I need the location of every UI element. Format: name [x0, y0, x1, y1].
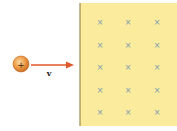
velocity-arrow: v: [31, 62, 74, 79]
velocity-label: v: [46, 68, 52, 78]
field-x-mark: ×: [97, 18, 104, 27]
diagram-canvas: ××××××××××××××× + v: [0, 0, 177, 131]
field-x-mark: ×: [97, 41, 104, 50]
field-x-mark: ×: [97, 108, 104, 117]
field-x-mark: ×: [97, 86, 104, 95]
field-x-mark: ×: [125, 41, 132, 50]
field-x-mark: ×: [154, 41, 161, 50]
field-x-mark: ×: [125, 108, 132, 117]
positive-charge: +: [13, 56, 29, 72]
field-x-mark: ×: [154, 18, 161, 27]
field-x-mark: ×: [97, 63, 104, 72]
field-x-mark: ×: [125, 63, 132, 72]
field-x-mark: ×: [125, 18, 132, 27]
field-x-mark: ×: [154, 63, 161, 72]
field-x-mark: ×: [154, 86, 161, 95]
charge-sign: +: [17, 60, 25, 70]
field-x-mark: ×: [154, 108, 161, 117]
field-x-mark: ×: [125, 86, 132, 95]
